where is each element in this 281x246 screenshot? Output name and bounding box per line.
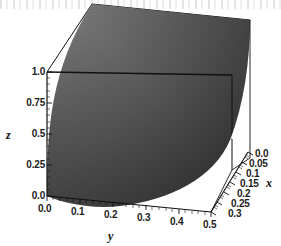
z-tick-label-1: 0.25 xyxy=(17,159,45,170)
z-tick-label-4: 1.0 xyxy=(23,66,45,77)
y-tick-label-5: 0.5 xyxy=(203,219,216,230)
x-tick-label-6: 0.3 xyxy=(228,208,241,219)
y-tick-label-3: 0.3 xyxy=(137,212,150,223)
z-axis-title: z xyxy=(6,128,11,143)
z-tick-label-3: 0.75 xyxy=(17,97,45,108)
surface-plot-figure: 1.0 0.75 0.5 0.25 0.0 0.0 0.1 0.2 0.3 0.… xyxy=(0,0,281,246)
z-tick-label-0: 0.0 xyxy=(23,190,45,201)
z-tick-label-2: 0.5 xyxy=(23,128,45,139)
surface-body xyxy=(47,4,250,207)
y-tick-label-0: 0.0 xyxy=(38,203,51,214)
y-axis-title: y xyxy=(108,229,113,244)
y-tick-label-4: 0.4 xyxy=(170,216,183,227)
y-tick-label-1: 0.1 xyxy=(71,206,84,217)
x-axis-title: x xyxy=(266,176,272,191)
y-tick-label-2: 0.2 xyxy=(104,209,117,220)
